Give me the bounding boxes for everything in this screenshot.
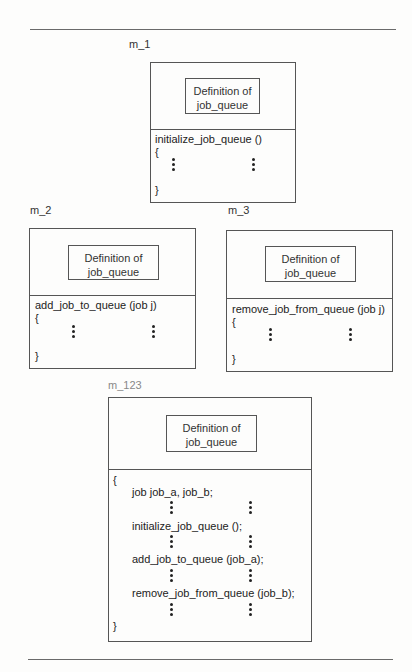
ellipsis-vertical-icon [172, 158, 175, 173]
definition-line-1: Definition of [186, 84, 259, 98]
definition-line-1: Definition of [69, 251, 158, 265]
module-m3: Definition of job_queue remove_job_from_… [226, 230, 393, 372]
function-signature: initialize_job_queue () [155, 133, 262, 145]
ellipsis-vertical-icon [252, 158, 255, 173]
module-label-m1: m_1 [129, 38, 150, 50]
statement-initialize: initialize_job_queue (); [132, 520, 242, 532]
close-brace: } [113, 620, 117, 632]
module-divider [151, 129, 295, 130]
close-brace: } [155, 184, 159, 196]
module-label-m3: m_3 [228, 204, 249, 216]
module-label-m123: m_123 [108, 379, 142, 391]
module-m123: Definition of job_queue { job job_a, job… [108, 397, 312, 642]
ellipsis-vertical-icon [249, 569, 252, 584]
module-divider [30, 295, 195, 296]
ellipsis-vertical-icon [170, 535, 173, 550]
bottom-rule [28, 659, 393, 660]
function-signature: add_job_to_queue (job j) [35, 299, 157, 311]
statement-remove: remove_job_from_queue (job_b); [132, 587, 295, 599]
close-brace: } [232, 353, 236, 365]
ellipsis-vertical-icon [152, 325, 155, 340]
definition-box: Definition of job_queue [68, 245, 159, 280]
open-brace: { [155, 146, 159, 158]
definition-line-2: job_queue [69, 265, 158, 279]
definition-line-2: job_queue [266, 266, 355, 280]
definition-line-1: Definition of [167, 421, 256, 435]
definition-line-2: job_queue [186, 98, 259, 112]
module-m2: Definition of job_queue add_job_to_queue… [29, 228, 196, 369]
definition-box: Definition of job_queue [185, 78, 260, 114]
close-brace: } [35, 350, 39, 362]
ellipsis-vertical-icon [170, 569, 173, 584]
module-label-m2: m_2 [30, 204, 51, 216]
ellipsis-vertical-icon [349, 328, 352, 343]
ellipsis-vertical-icon [249, 603, 252, 618]
definition-line-1: Definition of [266, 252, 355, 266]
function-signature: remove_job_from_queue (job j) [232, 303, 385, 315]
module-divider [227, 298, 392, 299]
ellipsis-vertical-icon [170, 501, 173, 516]
statement-add: add_job_to_queue (job_a); [132, 553, 264, 565]
ellipsis-vertical-icon [269, 328, 272, 343]
module-divider [109, 469, 311, 470]
module-m1: Definition of job_queue initialize_job_q… [150, 62, 296, 203]
ellipsis-vertical-icon [72, 325, 75, 340]
top-rule [30, 29, 396, 30]
open-brace: { [113, 474, 117, 486]
statement-declare-jobs: job job_a, job_b; [132, 486, 213, 498]
definition-box: Definition of job_queue [166, 415, 257, 452]
ellipsis-vertical-icon [170, 603, 173, 618]
definition-line-2: job_queue [167, 435, 256, 449]
definition-box: Definition of job_queue [265, 246, 356, 282]
open-brace: { [232, 316, 236, 328]
open-brace: { [35, 312, 39, 324]
ellipsis-vertical-icon [249, 535, 252, 550]
ellipsis-vertical-icon [249, 501, 252, 516]
